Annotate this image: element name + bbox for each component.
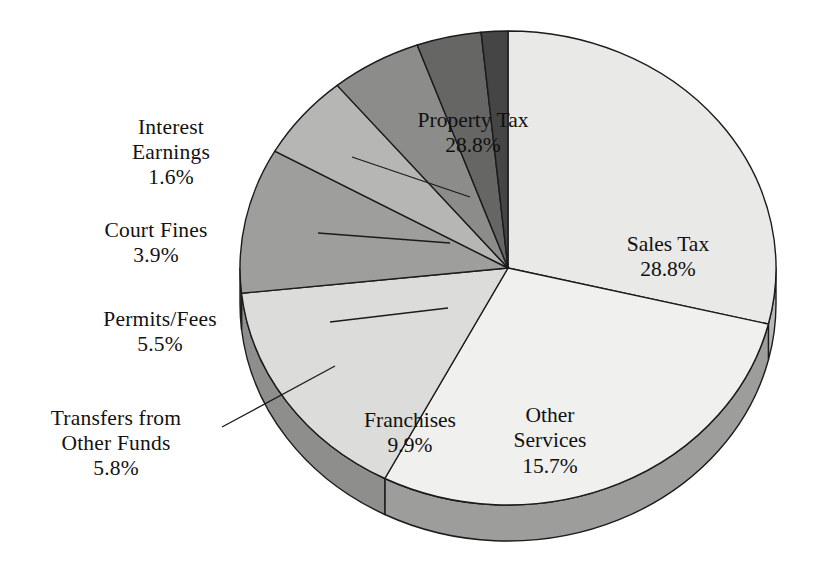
label-permits-fees-value: 5.5% (10, 332, 310, 357)
label-other-services-value: 15.7% (470, 454, 630, 479)
label-other-services-line2: Services (470, 428, 630, 453)
label-sales-tax: Sales Tax 28.8% (583, 232, 753, 283)
label-franchises-value: 9.9% (330, 433, 490, 458)
label-transfers-value: 5.8% (6, 456, 226, 481)
label-interest-earnings: Interest Earnings 1.6% (46, 115, 296, 190)
label-transfers-other-funds: Transfers from Other Funds 5.8% (6, 406, 226, 481)
label-court-fines-value: 3.9% (16, 243, 296, 268)
label-sales-tax-line1: Sales Tax (583, 232, 753, 257)
label-court-fines-line1: Court Fines (16, 218, 296, 243)
label-franchises: Franchises 9.9% (330, 408, 490, 459)
label-sales-tax-value: 28.8% (583, 257, 753, 282)
label-permits-fees: Permits/Fees 5.5% (10, 307, 310, 357)
pie-chart: Interest Earnings 1.6% Court Fines 3.9% … (0, 0, 818, 563)
label-property-tax-value: 28.8% (363, 133, 583, 158)
label-interest-earnings-value: 1.6% (46, 165, 296, 190)
label-other-services: Other Services 15.7% (470, 403, 630, 479)
label-property-tax-line1: Property Tax (363, 108, 583, 133)
label-franchises-line1: Franchises (330, 408, 490, 433)
label-court-fines: Court Fines 3.9% (16, 218, 296, 268)
label-property-tax: Property Tax 28.8% (363, 108, 583, 159)
label-transfers-line2: Other Funds (6, 431, 226, 456)
label-interest-earnings-line2: Earnings (46, 140, 296, 165)
label-transfers-line1: Transfers from (6, 406, 226, 431)
label-other-services-line1: Other (470, 403, 630, 428)
label-permits-fees-line1: Permits/Fees (10, 307, 310, 332)
label-interest-earnings-line1: Interest (46, 115, 296, 140)
